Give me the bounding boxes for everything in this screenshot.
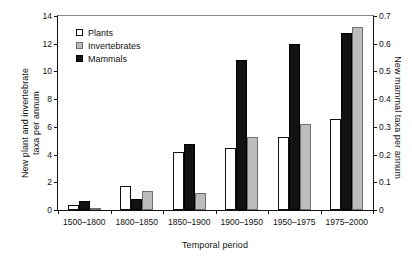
y-tick-label-right: 0.6 — [379, 39, 391, 49]
legend: PlantsInvertebratesMammals — [76, 26, 141, 65]
y-tick-label-right: 0 — [379, 205, 384, 215]
x-tick — [321, 210, 322, 214]
x-tick-label: 1850–1900 — [168, 217, 211, 227]
bar-invertebrates — [247, 137, 258, 210]
x-tick-label: 1900–1950 — [220, 217, 263, 227]
bar-plants — [120, 186, 131, 210]
y-axis-left-title: New plant and invertebrate taxa per annu… — [20, 28, 42, 218]
x-tick — [111, 210, 112, 214]
chart-figure: New plant and invertebrate taxa per annu… — [0, 0, 412, 264]
bar-invertebrates — [352, 27, 363, 210]
bar-mammals — [289, 44, 300, 210]
y-tick-label-left: 2 — [47, 177, 52, 187]
y-axis-right-title: New mammal taxa per annum — [392, 23, 403, 213]
bar-invertebrates — [195, 193, 206, 210]
y-tick-label-right: 0.4 — [379, 94, 391, 104]
legend-item: Invertebrates — [76, 39, 141, 52]
y-tick-label-right: 0.5 — [379, 66, 391, 76]
legend-swatch-mammals-icon — [76, 55, 83, 62]
bar-plants — [278, 137, 289, 210]
bar-plants — [68, 205, 79, 210]
y-tick-right — [373, 127, 377, 128]
y-tick-label-right: 0.2 — [379, 150, 391, 160]
y-tick-right — [373, 71, 377, 72]
x-tick — [373, 210, 374, 214]
y-tick-label-left: 6 — [47, 122, 52, 132]
y-axis-left-title-line2: taxa per annum — [31, 28, 42, 218]
y-tick-label-right: 0.3 — [379, 122, 391, 132]
bar-invertebrates — [142, 191, 153, 210]
x-tick-label: 1500–1800 — [63, 217, 106, 227]
y-tick-label-left: 4 — [47, 150, 52, 160]
bar-plants — [225, 148, 236, 210]
y-tick-label-right: 0.7 — [379, 11, 391, 21]
x-tick — [163, 210, 164, 214]
bar-group — [216, 16, 269, 210]
x-tick — [58, 210, 59, 214]
bar-group — [163, 16, 216, 210]
bar-group — [321, 16, 374, 210]
bar-invertebrates — [90, 208, 101, 210]
y-tick-right — [373, 99, 377, 100]
y-axis-left-title-line1: New plant and invertebrate — [20, 68, 30, 178]
y-tick-label-right: 0.1 — [379, 177, 391, 187]
x-axis-title: Temporal period — [55, 240, 375, 250]
legend-label: Plants — [88, 28, 113, 38]
bar-plants — [173, 152, 184, 210]
x-tick-label: 1950–1975 — [273, 217, 316, 227]
legend-swatch-invertebrates-icon — [76, 42, 83, 49]
y-tick-right — [373, 182, 377, 183]
bar-mammals — [131, 199, 142, 210]
bar-mammals — [184, 144, 195, 211]
y-tick-label-left: 14 — [43, 11, 52, 21]
x-tick-label: 1975–2000 — [325, 217, 368, 227]
bar-mammals — [79, 201, 90, 210]
x-tick-label: 1800–1850 — [115, 217, 158, 227]
bar-invertebrates — [300, 124, 311, 210]
y-tick-right — [373, 155, 377, 156]
y-tick-right — [373, 16, 377, 17]
bar-mammals — [341, 33, 352, 210]
y-tick-label-left: 8 — [47, 94, 52, 104]
x-tick — [216, 210, 217, 214]
bar-mammals — [236, 60, 247, 210]
x-tick — [268, 210, 269, 214]
legend-label: Invertebrates — [88, 41, 141, 51]
legend-label: Mammals — [88, 54, 127, 64]
bar-plants — [330, 119, 341, 210]
legend-swatch-plants-icon — [76, 29, 83, 36]
y-tick-right — [373, 44, 377, 45]
y-tick-label-left: 0 — [47, 205, 52, 215]
legend-item: Mammals — [76, 52, 141, 65]
legend-item: Plants — [76, 26, 141, 39]
y-tick-label-left: 12 — [43, 39, 52, 49]
bar-group — [268, 16, 321, 210]
y-tick-label-left: 10 — [43, 66, 52, 76]
